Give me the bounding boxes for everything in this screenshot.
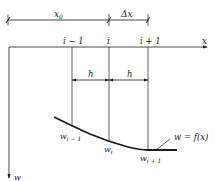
w-i-minus-1-label: wi − 1 — [60, 132, 81, 142]
node-label-i-plus-1: i + 1 — [140, 36, 161, 46]
w-i-label: wi — [104, 145, 113, 155]
node-label-i-minus-1: i − 1 — [63, 36, 84, 46]
node-label-i: i — [107, 36, 110, 46]
h-label-left: h — [88, 69, 93, 79]
function-curve — [54, 117, 177, 150]
finite-difference-diagram: x0 Δx x i − 1 i i + 1 w h h wi − 1 wi wi… — [0, 0, 215, 181]
diagram-canvas: x0 Δx x i − 1 i i + 1 w h h wi − 1 wi wi… — [0, 0, 215, 181]
h-dimension-line — [72, 79, 148, 82]
h-label-right: h — [127, 69, 132, 79]
equation-leader-line — [156, 139, 170, 150]
w-i-plus-1-label: wi + 1 — [140, 154, 161, 164]
w-axis-label: w — [14, 173, 21, 181]
x-axis-label: x — [202, 36, 207, 46]
equation-label: w = f(x) — [174, 132, 208, 142]
delta-x-label: Δx — [120, 9, 133, 19]
x0-label: x0 — [54, 9, 63, 20]
